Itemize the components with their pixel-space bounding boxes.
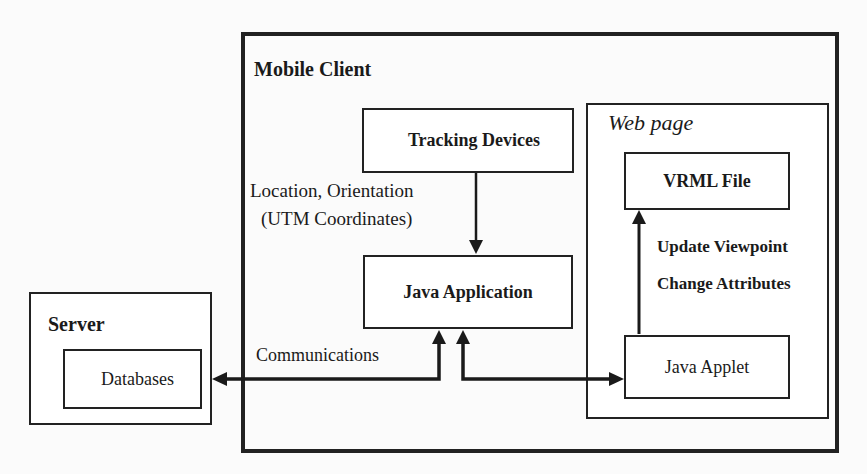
mobile-client-title: Mobile Client (254, 58, 371, 81)
tracking-devices-label: Tracking Devices (364, 110, 572, 171)
java-application-label: Java Application (365, 257, 571, 327)
databases-label: Databases (65, 351, 200, 407)
server-title: Server (48, 313, 105, 336)
databases-box: Databases (63, 349, 202, 409)
java-applet-box: Java Applet (624, 335, 790, 399)
update-viewpoint-label: Update Viewpoint (657, 237, 788, 257)
vrml-file-label: VRML File (626, 154, 788, 208)
location-orientation-label: Location, Orientation (250, 180, 414, 202)
java-application-box: Java Application (363, 255, 573, 329)
diagram-canvas: Server Databases Mobile Client Tracking … (0, 0, 867, 474)
tracking-devices-box: Tracking Devices (362, 108, 574, 173)
web-page-title: Web page (608, 110, 693, 136)
communications-label: Communications (256, 345, 379, 366)
utm-coordinates-label: (UTM Coordinates) (261, 208, 412, 230)
java-applet-label: Java Applet (626, 337, 788, 397)
vrml-file-box: VRML File (624, 152, 790, 210)
change-attributes-label: Change Attributes (657, 274, 791, 294)
